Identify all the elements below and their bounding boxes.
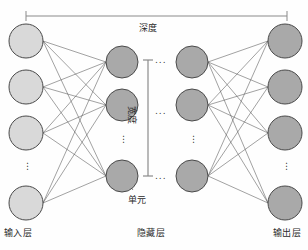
node-output-1 (268, 24, 302, 58)
depth-bracket (26, 11, 287, 21)
node-input-4 (9, 186, 43, 220)
ellipsis-width-top: ... (155, 56, 167, 65)
width-label: 宽度 (127, 106, 136, 125)
node-output-2 (268, 70, 302, 104)
node-hidden2-1 (176, 46, 208, 78)
layer-label-hidden: 隐藏层 (137, 229, 165, 238)
unit-label: 单元 (128, 196, 147, 205)
node-hidden1-3 (106, 160, 138, 192)
layer-input-nodes (9, 24, 43, 220)
layer-output-nodes (268, 24, 302, 220)
node-input-3 (9, 116, 43, 150)
node-input-1 (9, 24, 43, 58)
layer-label-input: 输入层 (4, 229, 32, 238)
ellipsis-hidden1-layer: ⋮ (119, 135, 129, 144)
node-input-2 (9, 70, 43, 104)
ellipsis-hidden2-layer: ⋮ (189, 135, 199, 144)
ellipsis-output-layer: ⋮ (282, 162, 292, 171)
edges-input-hidden1 (43, 41, 106, 203)
ellipsis-input-layer: ⋮ (23, 162, 33, 171)
depth-label: 深度 (139, 24, 158, 33)
layer-label-output: 输出层 (273, 229, 301, 238)
ellipsis-width-mid: ... (155, 107, 167, 116)
width-bracket (143, 60, 153, 176)
edges-hidden2-output (208, 41, 268, 203)
node-hidden2-3 (176, 160, 208, 192)
network-graphic (0, 0, 308, 250)
layer-hidden2-nodes (176, 46, 208, 192)
node-hidden2-2 (176, 89, 208, 121)
node-output-4 (268, 186, 302, 220)
neural-network-diagram: ⋮ ⋮ ⋮ ⋮ ... ... ... 深度 宽度 单元 输入层 隐藏层 输出层 (0, 0, 308, 250)
ellipsis-width-bottom: ... (155, 172, 167, 181)
node-output-3 (268, 116, 302, 150)
node-hidden1-1 (106, 46, 138, 78)
